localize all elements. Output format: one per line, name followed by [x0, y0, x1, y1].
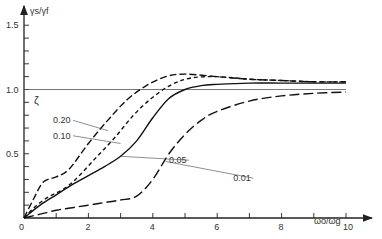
y-tick-label: 0.5 — [6, 149, 19, 159]
y-axis-label: γs/γf — [30, 6, 49, 16]
x-tick-label: 6 — [214, 222, 219, 232]
y-tick-label: 1.0 — [6, 85, 19, 95]
curves — [24, 74, 346, 218]
chart-svg: 02468100.51.01.5 0.200.100.050.01 γs/γf … — [0, 0, 382, 239]
axes — [24, 6, 372, 218]
leader-line — [166, 161, 254, 178]
x-tick-label: 4 — [150, 222, 155, 232]
x-tick-label: 0 — [19, 222, 24, 232]
x-tick-label: 10 — [343, 222, 353, 232]
x-tick-label: 8 — [279, 222, 284, 232]
ticks: 02468100.51.01.5 — [6, 20, 353, 232]
legend-title-zeta: ζ — [34, 94, 39, 106]
x-axis-label: ωo/ωg — [314, 216, 341, 226]
series-zeta-0.05 — [24, 83, 346, 218]
annotations: 0.200.100.050.01 — [53, 115, 253, 183]
curve-label: 0.20 — [53, 115, 71, 125]
x-tick-label: 2 — [85, 222, 90, 232]
y-tick-label: 1.5 — [6, 20, 19, 30]
series-zeta-0.20 — [24, 74, 346, 218]
curve-label: 0.10 — [53, 131, 71, 141]
series-zeta-0.10 — [24, 77, 346, 218]
chart: 02468100.51.01.5 0.200.100.050.01 γs/γf … — [0, 0, 382, 239]
